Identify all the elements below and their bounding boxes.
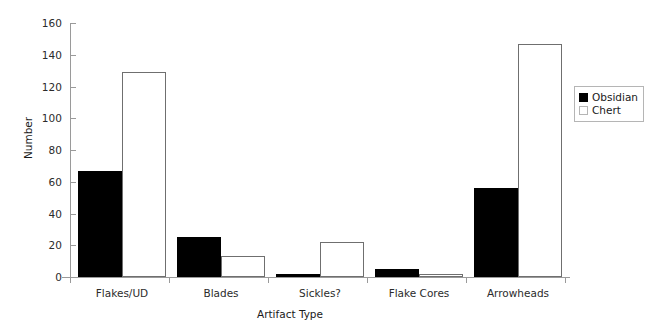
y-axis-tick-label: 120 xyxy=(16,82,62,93)
y-axis-tick-label: 20 xyxy=(16,240,62,251)
x-axis-line xyxy=(62,277,570,278)
bar-obsidian-1 xyxy=(177,237,221,277)
x-axis-tick xyxy=(169,277,170,283)
x-axis-tick xyxy=(268,277,269,283)
bar-obsidian-0 xyxy=(78,171,122,277)
bar-chert-4 xyxy=(518,44,562,277)
legend-label: Chert xyxy=(592,105,621,116)
x-axis-tick xyxy=(367,277,368,283)
x-axis-title: Artifact Type xyxy=(0,309,580,320)
y-axis-tick-label: 140 xyxy=(16,50,62,61)
y-axis-tick-label: 60 xyxy=(16,177,62,188)
legend-swatch-icon xyxy=(579,106,588,115)
x-axis-label-4: Arrowheads xyxy=(468,288,568,299)
y-axis-tick xyxy=(70,23,76,24)
bar-chert-0 xyxy=(122,72,166,277)
x-axis-tick xyxy=(466,277,467,283)
x-axis-label-3: Flake Cores xyxy=(369,288,469,299)
bar-chart: 020406080100120140160 Number Flakes/UDBl… xyxy=(0,0,647,334)
bar-chert-1 xyxy=(221,256,265,277)
legend-swatch-icon xyxy=(579,93,588,102)
x-axis-label-0: Flakes/UD xyxy=(72,288,172,299)
chart-legend: ObsidianChert xyxy=(574,86,644,122)
y-axis-tick xyxy=(70,245,76,246)
x-axis-tick xyxy=(70,277,71,283)
bar-obsidian-4 xyxy=(474,188,518,277)
x-axis-label-2: Sickles? xyxy=(270,288,370,299)
x-axis-tick xyxy=(565,277,566,283)
y-axis-tick-label: 0 xyxy=(16,272,62,283)
y-axis-tick xyxy=(70,118,76,119)
legend-item-chert: Chert xyxy=(579,104,638,117)
legend-label: Obsidian xyxy=(592,92,638,103)
y-axis-tick xyxy=(70,150,76,151)
bar-obsidian-3 xyxy=(375,269,419,277)
y-axis-tick xyxy=(70,87,76,88)
y-axis-tick-label: 40 xyxy=(16,209,62,220)
x-axis-label-1: Blades xyxy=(171,288,271,299)
legend-item-obsidian: Obsidian xyxy=(579,91,638,104)
y-axis-tick-label: 160 xyxy=(16,18,62,29)
bar-chert-2 xyxy=(320,242,364,277)
y-axis-tick xyxy=(70,55,76,56)
y-axis-title: Number xyxy=(22,98,34,178)
y-axis-tick xyxy=(70,214,76,215)
y-axis-tick xyxy=(70,182,76,183)
